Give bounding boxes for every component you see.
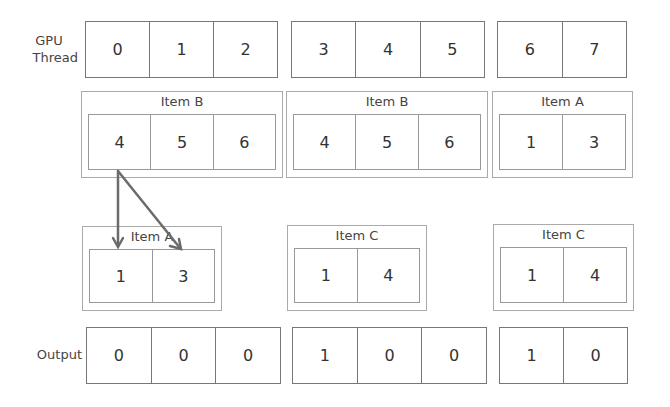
- input-item-1: Item B 4 5 6: [286, 91, 488, 178]
- item-value-cell: 5: [356, 115, 418, 169]
- item-value-cell: 4: [358, 249, 420, 302]
- item-value-cell: 1: [500, 115, 563, 169]
- gpu-thread-cell: 2: [214, 22, 277, 77]
- item-value-cell: 3: [153, 250, 215, 302]
- item-values: 1 4: [500, 247, 627, 303]
- item-value-cell: 1: [501, 248, 564, 302]
- item-values: 4 5 6: [293, 114, 481, 170]
- gpu-thread-cell: 7: [563, 22, 627, 77]
- item-value-cell: 1: [90, 250, 153, 302]
- item-title: Item C: [494, 227, 633, 242]
- output-cell: 1: [293, 328, 358, 383]
- output-group-1: 1 0 0: [292, 327, 487, 384]
- gpu-thread-label-line1: GPU: [20, 32, 78, 49]
- gpu-thread-cell: 6: [498, 22, 563, 77]
- item-values: 1 3: [89, 249, 215, 303]
- item-value-cell: 5: [151, 115, 213, 169]
- gpu-thread-cell: 1: [150, 22, 214, 77]
- item-title: Item A: [493, 94, 632, 109]
- gpu-thread-label-line2: Thread: [20, 49, 78, 66]
- output-cell: 0: [87, 328, 152, 383]
- lookup-item-1: Item C 1 4: [287, 225, 427, 311]
- output-cell: 0: [564, 328, 627, 383]
- lookup-item-2: Item C 1 4: [493, 224, 634, 311]
- item-values: 1 4: [294, 248, 420, 303]
- output-cell: 1: [500, 328, 564, 383]
- item-value-cell: 6: [214, 115, 275, 169]
- gpu-thread-cell: 0: [86, 22, 150, 77]
- output-label: Output: [20, 346, 82, 363]
- output-group-2: 1 0: [499, 327, 628, 384]
- item-values: 4 5 6: [88, 114, 276, 170]
- item-value-cell: 4: [89, 115, 151, 169]
- item-values: 1 3: [499, 114, 626, 170]
- lookup-item-0: Item A 1 3: [82, 226, 222, 311]
- item-title: Item A: [83, 229, 221, 244]
- gpu-thread-label: GPU Thread: [20, 32, 78, 66]
- item-title: Item B: [82, 94, 282, 109]
- gpu-thread-group-1: 3 4 5: [291, 21, 485, 78]
- gpu-thread-group-2: 6 7: [497, 21, 627, 78]
- item-value-cell: 1: [295, 249, 358, 302]
- item-title: Item B: [287, 94, 487, 109]
- gpu-thread-cell: 5: [421, 22, 484, 77]
- output-cell: 0: [422, 328, 486, 383]
- gpu-thread-cell: 3: [292, 22, 356, 77]
- item-value-cell: 6: [419, 115, 480, 169]
- gpu-thread-group-0: 0 1 2: [85, 21, 278, 78]
- item-value-cell: 3: [563, 115, 625, 169]
- input-item-0: Item B 4 5 6: [81, 91, 283, 178]
- output-cell: 0: [152, 328, 217, 383]
- item-title: Item C: [288, 228, 426, 243]
- output-group-0: 0 0 0: [86, 327, 281, 384]
- item-value-cell: 4: [294, 115, 356, 169]
- item-value-cell: 4: [564, 248, 626, 302]
- output-cell: 0: [216, 328, 280, 383]
- gpu-thread-cell: 4: [356, 22, 420, 77]
- output-cell: 0: [358, 328, 423, 383]
- input-item-2: Item A 1 3: [492, 91, 633, 178]
